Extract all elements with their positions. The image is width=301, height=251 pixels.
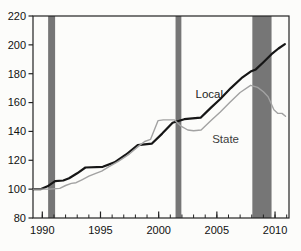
- x-tick-label: 2010: [263, 224, 287, 236]
- recession-band: [176, 16, 182, 218]
- y-tick-label: 140: [8, 125, 26, 137]
- y-tick-label: 100: [8, 183, 26, 195]
- series-label-state: State: [212, 133, 239, 145]
- x-tick-label: 2000: [146, 224, 170, 236]
- chart-svg: 1990199520002005201080100120140160180200…: [0, 0, 301, 251]
- y-tick-label: 160: [8, 96, 26, 108]
- series-label-local: Local: [196, 88, 224, 100]
- y-tick-label: 120: [8, 154, 26, 166]
- y-tick-label: 220: [8, 10, 26, 22]
- y-tick-label: 80: [14, 212, 26, 224]
- x-tick-label: 2005: [205, 224, 229, 236]
- recession-band: [48, 16, 55, 218]
- x-tick-label: 1995: [88, 224, 112, 236]
- y-tick-label: 200: [8, 39, 26, 51]
- line-chart-figure: 1990199520002005201080100120140160180200…: [0, 0, 301, 251]
- x-tick-label: 1990: [30, 224, 54, 236]
- recession-band: [252, 16, 271, 218]
- y-tick-label: 180: [8, 68, 26, 80]
